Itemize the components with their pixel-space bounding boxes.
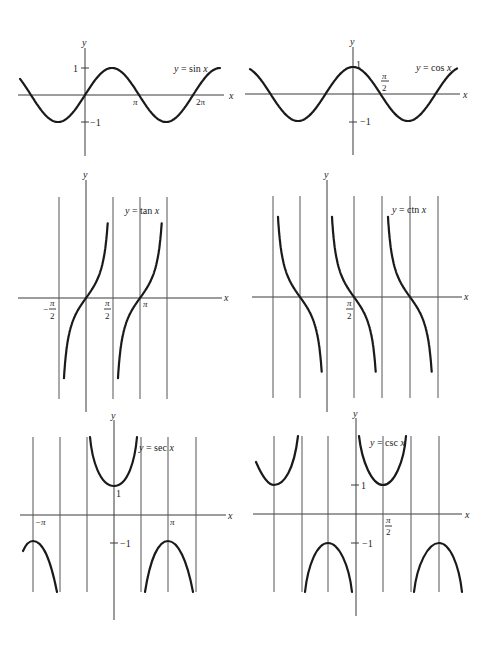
y-axis-label: y [352,408,358,419]
sin-graph: x y 1 −1 π 2π y = sin x [18,37,234,156]
csc-equation: y = csc x [369,437,405,448]
y-axis-label: y [323,169,329,180]
sec-branch-right [145,541,193,592]
y-tick-1: 1 [116,488,121,499]
x-tick-pi-half-den: 2 [382,83,387,93]
x-axis-label: x [462,89,468,100]
ctn-equation: y = ctn x [391,204,427,215]
x-tick-pi-half-den: 2 [386,527,391,537]
tan-equation: y = tan x [124,205,160,216]
x-tick-neg-pi-half-num: π [50,298,55,308]
x-tick-pi: π [133,97,138,107]
sec-branch-left [23,541,57,592]
x-tick-pi: π [143,299,148,309]
x-tick-pi-half-num: π [386,515,391,525]
x-axis-label: x [463,291,469,302]
y-tick-1: 1 [361,480,366,491]
y-axis-label: y [110,410,116,421]
y-tick-neg1: −1 [120,538,131,549]
cos-graph: x y 1 −1 π 2 y = cos x [245,36,468,155]
x-axis-label: x [464,509,470,520]
x-tick-neg-pi-half-den: 2 [50,311,55,321]
x-tick-pi-half-num: π [347,298,352,308]
x-tick-pi: π [170,517,175,527]
csc-branch-left [256,436,298,485]
x-tick-pi-half-den: 2 [105,311,110,321]
csc-branch-neg-right [414,543,462,592]
trig-graphs-figure: x y 1 −1 π 2π y = sin x x y 1 −1 π 2 y =… [0,0,493,649]
ctn-graph: x y π 2 y = ctn x [252,169,469,412]
x-tick-2pi: 2π [196,97,206,107]
x-axis-label: x [223,292,229,303]
x-tick-pi-half-den: 2 [347,311,352,321]
tan-graph: x y − π 2 π 2 π y = tan x [18,169,229,412]
y-axis-label: y [81,37,87,48]
ctn-curve [278,217,432,372]
x-tick-neg-pi: −π [35,517,46,527]
y-tick-neg1: −1 [360,116,371,127]
y-tick-1: 1 [73,63,78,74]
y-tick-neg1: −1 [362,538,373,549]
x-tick-pi-half-num: π [105,298,110,308]
x-tick-neg-sign: − [43,304,48,314]
csc-graph: x y 1 −1 π 2 y = csc x [253,408,470,616]
sin-equation: y = sin x [173,63,208,74]
y-tick-1: 1 [356,59,361,70]
sec-graph: x y 1 −1 −π π y = sec x [20,410,233,620]
x-axis-label: x [227,510,233,521]
sec-equation: y = sec x [138,442,174,453]
y-axis-label: y [82,169,88,180]
x-axis-label: x [228,90,234,101]
y-tick-neg1: −1 [90,117,101,128]
y-axis-label: y [349,36,355,47]
x-tick-pi-half-num: π [382,71,387,81]
cos-equation: y = cos x [415,62,452,73]
